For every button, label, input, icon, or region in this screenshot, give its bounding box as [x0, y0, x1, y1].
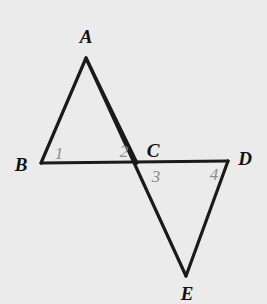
vertex-label-b: B	[15, 155, 28, 174]
figure-canvas	[0, 0, 267, 304]
segment-D-to-E	[186, 161, 228, 276]
baseline-B-to-D	[41, 161, 228, 163]
angle-label-4: 4	[210, 166, 219, 183]
geometry-figure: A B C D E 1 2 3 4	[0, 0, 267, 304]
vertex-label-c: C	[147, 141, 160, 160]
vertex-label-d: D	[238, 149, 252, 168]
vertex-label-e: E	[181, 284, 194, 303]
vertex-label-a: A	[80, 27, 93, 46]
angle-label-3: 3	[152, 168, 161, 185]
transversal-A-to-E	[86, 58, 186, 276]
segment-group	[41, 58, 228, 276]
angle-label-2: 2	[120, 143, 129, 160]
angle-label-1: 1	[55, 145, 64, 162]
